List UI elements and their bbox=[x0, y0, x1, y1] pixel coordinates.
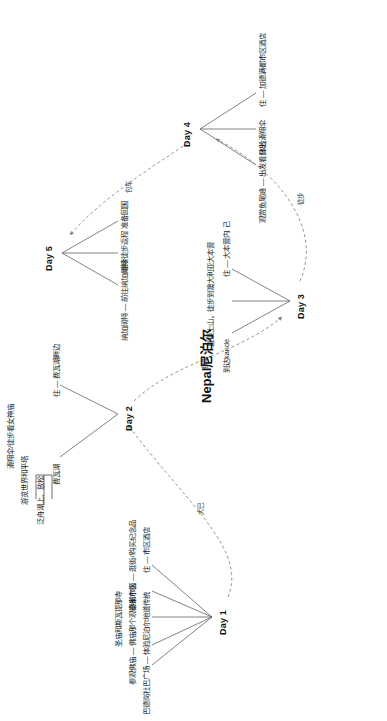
day3-item-2: 住 — 大本营内 己 bbox=[222, 221, 231, 277]
node-day1-label[interactable]: Day 1 bbox=[218, 610, 228, 635]
day1-item-2: 圣庙和斯瓦提那寺 bbox=[114, 591, 123, 647]
day2-connectors bbox=[60, 385, 118, 457]
edge-day1-day2-label: 大巴 bbox=[196, 503, 205, 515]
day5-item-2: 准备回国 bbox=[120, 201, 129, 229]
day3-item-1: 直接上山，徒步到澳大利亚大本营 bbox=[206, 242, 215, 347]
edge-day3-day4-label: 徒步 bbox=[296, 193, 305, 205]
node-day2-label[interactable]: Day 2 bbox=[124, 406, 134, 431]
day1-item-0: 巴德岗杜巴广场 — 体验尼泊尔地道传统 bbox=[142, 592, 151, 716]
node-day3-label[interactable]: Day 3 bbox=[296, 294, 306, 319]
day2-item-1: 泛舟湖上、放松 bbox=[36, 476, 45, 525]
day3-item-0: 到达kande bbox=[222, 339, 231, 373]
edge-day4-day5-label: 包车 bbox=[124, 181, 133, 193]
day2-item-0: 费瓦湖 bbox=[52, 464, 61, 485]
day1-item-3: 泰米尔街 — 逛街/购买纪念品 bbox=[128, 520, 137, 611]
day5-item-1: 继续徒步返程 bbox=[120, 231, 129, 273]
day4-connectors bbox=[200, 93, 256, 165]
day4-item-1: 体验滑翔伞 bbox=[258, 120, 267, 155]
day1-item-4: 住 — 市区酒店 bbox=[142, 527, 151, 574]
day2-item-3: 滑翔伞/徒步看女神庙 bbox=[6, 404, 15, 469]
day1-connectors bbox=[152, 565, 212, 665]
day3-connectors bbox=[232, 269, 290, 333]
day5-connectors bbox=[62, 221, 118, 285]
node-day4-label[interactable]: Day 4 bbox=[182, 122, 192, 147]
day4-item-2: 住 — 加德满都市区酒店 bbox=[258, 33, 267, 108]
edge-day2-day3-label: 包车 bbox=[200, 357, 209, 369]
mindmap-canvas: Nepal尼泊尔 Day 1 巴德岗杜巴广场 — 体验尼泊尔地道传统 参观佛庙 … bbox=[0, 0, 387, 721]
node-day5-label[interactable]: Day 5 bbox=[44, 246, 54, 271]
diagram-viewport: Nepal尼泊尔 Day 1 巴德岗杜巴广场 — 体验尼泊尔地道传统 参观佛庙 … bbox=[0, 0, 387, 721]
day2-item-2: 游览世界和平塔 bbox=[20, 456, 29, 505]
day2-item-4: 住 — 费瓦湖畔边 bbox=[52, 344, 61, 398]
